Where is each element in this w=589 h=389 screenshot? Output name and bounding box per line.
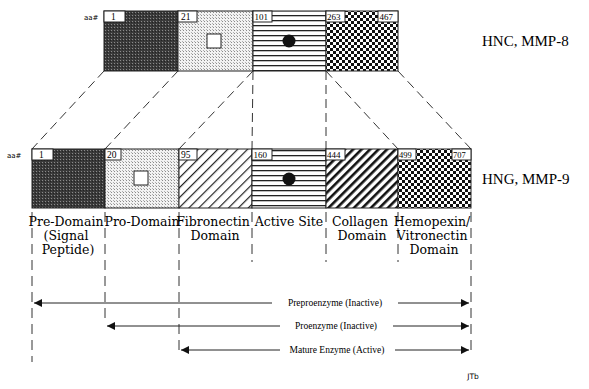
aa-tag-text: 95 (181, 150, 191, 160)
aa-tag-text: 20 (107, 150, 117, 160)
square-marker-icon (134, 171, 148, 185)
domain-label-active-site: Active Site (254, 214, 323, 229)
aa-label-top: aa# (84, 14, 99, 22)
domain-label-pre: Pre-Domain (Signal Peptide) (29, 214, 108, 257)
circle-marker-icon (283, 173, 296, 186)
aa-label-bottom: aa# (7, 152, 22, 160)
domain-label-pro: Pro-Domain (104, 214, 179, 229)
mapping-lines (32, 71, 471, 149)
author-signature: JTb (466, 372, 479, 381)
aa-tag-text: 467 (380, 12, 394, 22)
range-label-mature: Mature Enzyme (Active) (290, 345, 385, 356)
domain-label-fibronectin: Fibronectin Domain (176, 214, 254, 243)
mmp-domain-diagram: aa# 1 21 101 263 467 HNC, MMP-8 aa# (0, 0, 589, 389)
domain-labels: Pre-Domain (Signal Peptide) Pro-Domain F… (29, 214, 475, 257)
aa-tag-text: 444 (327, 150, 341, 160)
aa-tag-text: 1 (39, 150, 44, 160)
aa-tag-text: 21 (181, 12, 191, 22)
aa-tag-text: 499 (399, 150, 412, 160)
aa-tag-text: 101 (255, 12, 269, 22)
aa-tag-text: 263 (327, 12, 341, 22)
domain-label-hemopexin: Hemopexin/ Vitronectin Domain (394, 214, 474, 257)
circle-marker-icon (283, 35, 296, 48)
domain-label-collagen: Collagen Domain (332, 214, 392, 243)
mmp9-bar: aa# 1 20 95 160 444 499 707 HNG, MMP-9 (7, 149, 570, 208)
square-marker-icon (207, 34, 221, 48)
aa-tag-text: 1 (111, 12, 116, 22)
aa-tag-text: 707 (453, 150, 466, 160)
mmp8-bar: aa# 1 21 101 263 467 HNC, MMP-8 (84, 11, 569, 71)
range-labels: Preproenzyme (Inactive) Proenzyme (Inact… (288, 298, 385, 356)
range-label-proenzyme: Proenzyme (Inactive) (295, 321, 377, 332)
range-label-preproenzyme: Preproenzyme (Inactive) (288, 298, 382, 309)
mmp9-title: HNG, MMP-9 (482, 171, 570, 187)
range-arrows (34, 303, 469, 350)
aa-tag-text: 160 (254, 150, 268, 160)
mmp8-title: HNC, MMP-8 (482, 33, 569, 49)
